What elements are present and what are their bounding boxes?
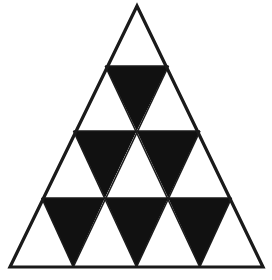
triangle-figure-svg <box>0 0 272 280</box>
figure-canvas <box>0 0 272 280</box>
